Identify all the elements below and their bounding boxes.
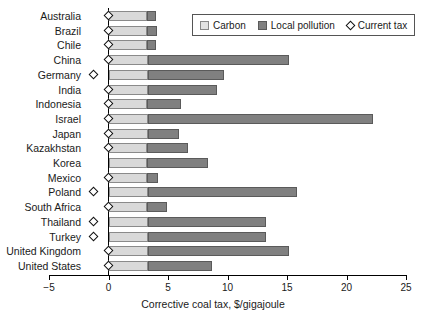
bar-segment-carbon <box>109 246 148 256</box>
chart-row: United Kingdom <box>0 244 426 258</box>
bar-segment-carbon <box>109 232 148 242</box>
chart-row: Israel <box>0 112 426 126</box>
category-label: United Kingdom <box>0 244 81 258</box>
bar-segment-carbon <box>109 99 147 109</box>
category-label: Thailand <box>0 215 81 229</box>
x-tick <box>49 275 50 280</box>
chart-row: China <box>0 53 426 67</box>
x-tick-label: 20 <box>327 282 367 293</box>
chart-row: Chile <box>0 38 426 52</box>
chart-row: South Africa <box>0 200 426 214</box>
chart-row: Turkey <box>0 230 426 244</box>
category-label: Israel <box>0 112 81 126</box>
current-tax-marker <box>88 69 98 79</box>
category-label: Kazakhstan <box>0 141 81 155</box>
category-label: Chile <box>0 38 81 52</box>
bar-segment-local-pollution <box>148 114 373 124</box>
bar-segment-carbon <box>109 261 148 271</box>
category-label: Japan <box>0 127 81 141</box>
x-tick-label: −5 <box>29 282 69 293</box>
x-axis-title: Corrective coal tax, $/gigajoule <box>0 298 426 310</box>
current-tax-marker <box>88 187 98 197</box>
chart-row: India <box>0 83 426 97</box>
x-tick <box>109 275 110 280</box>
bar-segment-local-pollution <box>148 232 266 242</box>
x-tick-label: 15 <box>267 282 307 293</box>
bar-segment-carbon <box>109 70 148 80</box>
bar-segment-local-pollution <box>148 70 224 80</box>
x-tick <box>168 275 169 280</box>
bar-segment-local-pollution <box>148 217 266 227</box>
category-label: China <box>0 53 81 67</box>
chart-row: Germany <box>0 68 426 82</box>
category-label: Poland <box>0 185 81 199</box>
category-label: South Africa <box>0 200 81 214</box>
bar-segment-local-pollution <box>147 202 167 212</box>
chart-row: Kazakhstan <box>0 141 426 155</box>
bar-segment-local-pollution <box>148 85 217 95</box>
bar-segment-local-pollution <box>147 158 209 168</box>
x-tick-label: 5 <box>148 282 188 293</box>
bar-segment-carbon <box>109 217 148 227</box>
category-label: Korea <box>0 156 81 170</box>
bar-segment-carbon <box>109 158 147 168</box>
bar-segment-carbon <box>109 26 147 36</box>
bar-segment-local-pollution <box>148 261 212 271</box>
x-tick <box>406 275 407 280</box>
category-label: Turkey <box>0 230 81 244</box>
x-tick <box>287 275 288 280</box>
bar-segment-carbon <box>109 202 147 212</box>
x-tick <box>347 275 348 280</box>
x-tick-label: 0 <box>89 282 129 293</box>
chart-row: Korea <box>0 156 426 170</box>
x-tick-label: 25 <box>386 282 426 293</box>
bar-segment-carbon <box>109 40 147 50</box>
category-label: Australia <box>0 9 81 23</box>
bar-segment-local-pollution <box>147 40 157 50</box>
bar-segment-carbon <box>109 85 148 95</box>
bar-segment-local-pollution <box>147 26 158 36</box>
chart-row: Thailand <box>0 215 426 229</box>
bar-segment-carbon <box>109 11 147 21</box>
bar-segment-local-pollution <box>148 246 290 256</box>
corrective-coal-tax-chart: −50510152025 Corrective coal tax, $/giga… <box>0 0 426 318</box>
bar-segment-carbon <box>109 187 148 197</box>
category-label: Mexico <box>0 171 81 185</box>
x-tick <box>228 275 229 280</box>
bar-segment-local-pollution <box>148 187 297 197</box>
category-label: Indonesia <box>0 97 81 111</box>
bar-segment-carbon <box>109 143 147 153</box>
category-label: Germany <box>0 68 81 82</box>
bar-segment-local-pollution <box>147 143 189 153</box>
bar-segment-local-pollution <box>147 173 159 183</box>
chart-row: United States <box>0 259 426 273</box>
bar-segment-carbon <box>109 129 148 139</box>
chart-row: Indonesia <box>0 97 426 111</box>
category-label: India <box>0 83 81 97</box>
chart-row: Japan <box>0 127 426 141</box>
category-label: Brazil <box>0 24 81 38</box>
bar-segment-carbon <box>109 114 148 124</box>
category-label: United States <box>0 259 81 273</box>
bar-segment-local-pollution <box>148 129 179 139</box>
chart-row: Australia <box>0 9 426 23</box>
bar-segment-local-pollution <box>147 99 182 109</box>
current-tax-marker <box>88 231 98 241</box>
x-tick-label: 10 <box>208 282 248 293</box>
chart-row: Mexico <box>0 171 426 185</box>
chart-row: Poland <box>0 185 426 199</box>
chart-row: Brazil <box>0 24 426 38</box>
bar-segment-local-pollution <box>147 11 157 21</box>
current-tax-marker <box>88 216 98 226</box>
bar-segment-carbon <box>109 173 147 183</box>
bar-segment-local-pollution <box>148 55 290 65</box>
bar-segment-carbon <box>109 55 148 65</box>
